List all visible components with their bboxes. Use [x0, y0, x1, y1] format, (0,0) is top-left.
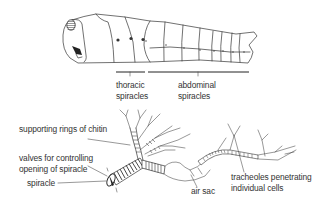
thoracic-spiracle [141, 38, 144, 41]
mandible [72, 46, 82, 55]
label-spiracle: spiracle [27, 178, 55, 189]
label-supporting-rings: supporting rings of chitin [19, 124, 107, 135]
thoracic-spiracle [129, 37, 132, 40]
label-air-sac: air sac [191, 186, 215, 197]
label-valves: valves for controlling opening of spirac… [19, 153, 93, 174]
label-tracheoles: tracheoles penetrating individual cells [231, 172, 312, 193]
leader-supporting-rings [88, 139, 130, 145]
tracheal-system-diagram: thoracic spiracles abdominal spiracles s… [0, 0, 326, 218]
label-abdominal-spiracles: abdominal spiracles [178, 80, 216, 101]
caterpillar-body [63, 14, 257, 63]
label-thoracic-spiracles: thoracic spiracles [116, 80, 148, 101]
leader-spiracle [58, 181, 106, 183]
thoracic-spiracle [116, 38, 119, 41]
